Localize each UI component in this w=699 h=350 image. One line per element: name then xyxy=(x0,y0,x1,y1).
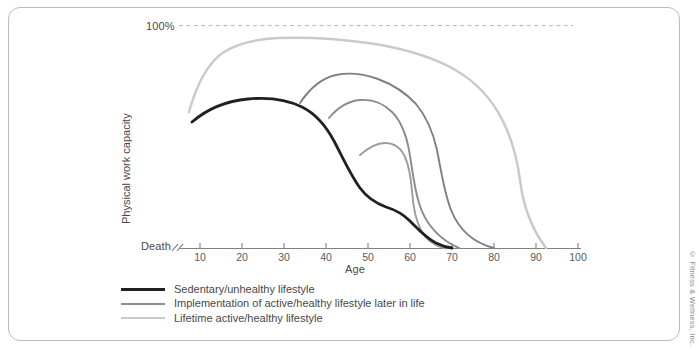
x-tick-label: 30 xyxy=(278,251,290,263)
y-axis-bottom-label: Death xyxy=(141,240,171,252)
legend-entry-lifetime-active: Lifetime active/healthy lifestyle xyxy=(121,311,551,326)
legend-entry-sedentary: Sedentary/unhealthy lifestyle xyxy=(121,282,551,297)
legend-line-icon xyxy=(121,303,165,305)
legend-label: Lifetime active/healthy lifestyle xyxy=(174,313,323,324)
x-tick-label: 90 xyxy=(530,251,542,263)
x-axis-title: Age xyxy=(345,263,365,275)
legend-entry-implementation: Implementation of active/healthy lifesty… xyxy=(121,297,551,312)
x-tick-label: 20 xyxy=(236,251,248,263)
x-tick-label: 100 xyxy=(569,251,587,263)
x-tick-label: 50 xyxy=(362,251,374,263)
copyright-notice: © Fitness & Wellness, Inc. xyxy=(688,250,697,346)
x-tick-label: 70 xyxy=(446,251,458,263)
legend-label: Sedentary/unhealthy lifestyle xyxy=(174,284,315,295)
legend-line-icon xyxy=(121,317,165,319)
chart-figure: 100% Death Physical work capacity Age 10… xyxy=(0,0,699,350)
legend: Sedentary/unhealthy lifestyle Implementa… xyxy=(121,282,551,326)
x-tick-label: 10 xyxy=(194,251,206,263)
x-tick-label: 60 xyxy=(404,251,416,263)
x-tick-label: 40 xyxy=(320,251,332,263)
legend-line-icon xyxy=(121,288,165,291)
y-axis-top-label: 100% xyxy=(146,20,175,32)
legend-label: Implementation of active/healthy lifesty… xyxy=(174,298,425,309)
x-tick-label: 80 xyxy=(488,251,500,263)
y-axis-title: Physical work capacity xyxy=(118,94,134,244)
